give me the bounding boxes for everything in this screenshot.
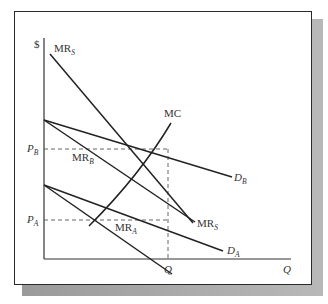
price-discrimination-diagram: $ MRS MC DB MRB MRS DA MRA PB PA Q Q xyxy=(0,0,328,304)
p-b-label: PB xyxy=(26,142,39,157)
mc-curve xyxy=(89,123,171,226)
x-axis-label: Q xyxy=(283,263,291,275)
mr-s-top-label: MRS xyxy=(54,42,75,57)
mc-label: MC xyxy=(164,107,181,119)
p-a-label: PA xyxy=(26,213,39,228)
y-axis-label: $ xyxy=(34,38,40,50)
mr-b-label: MRB xyxy=(72,151,94,166)
d-b-label: DB xyxy=(233,171,247,186)
q-tick-label: Q xyxy=(164,263,172,275)
d-b-curve xyxy=(44,120,232,177)
mr-a-curve xyxy=(44,185,172,274)
mr-s-end-label: MRS xyxy=(197,217,218,232)
mr-a-label: MRA xyxy=(115,221,137,236)
d-a-label: DA xyxy=(226,244,240,259)
